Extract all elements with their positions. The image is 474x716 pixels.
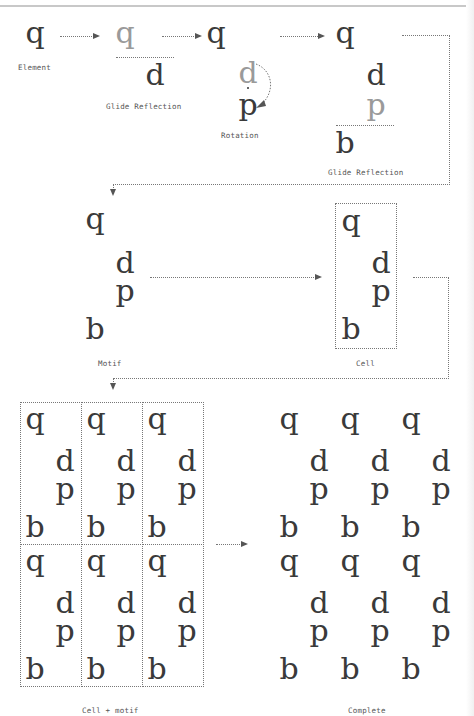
label-glide2: Glide Reflection (328, 168, 403, 177)
motif-q: q (84, 204, 106, 234)
grid-glyph-q: q (85, 404, 107, 434)
arrow-head-1 (93, 33, 100, 39)
rotation-q: q (205, 18, 227, 48)
arrow-head-3 (318, 33, 325, 39)
glide2-q: q (334, 18, 356, 48)
arrow-head-4 (110, 189, 116, 196)
label-rotation: Rotation (221, 131, 259, 140)
complete-glyph-p: p (430, 474, 452, 504)
label-cell-motif: Cell + motif (82, 706, 139, 715)
connector-1-right (449, 35, 450, 185)
connector-2-right (448, 277, 449, 379)
rotation-arc-icon (252, 62, 278, 110)
complete-glyph-p: p (308, 474, 330, 504)
connector-1-bottom (113, 184, 450, 185)
complete-glyph-p: p (430, 616, 452, 646)
grid-glyph-p: p (54, 616, 76, 646)
complete-glyph-b: b (278, 654, 300, 684)
cell-p: p (370, 276, 392, 306)
label-glide1: Glide Reflection (106, 102, 181, 111)
arrow-line-3 (280, 36, 320, 37)
complete-glyph-b: b (400, 654, 422, 684)
arrow-head-7 (241, 541, 248, 547)
grid-glyph-b: b (146, 654, 168, 684)
grid-glyph-p: p (115, 616, 137, 646)
label-cell: Cell (356, 359, 375, 368)
complete-glyph-b: b (278, 512, 300, 542)
motif-p: p (114, 276, 136, 306)
glide1-d: d (144, 60, 166, 90)
label-motif: Motif (98, 359, 122, 368)
grid-glyph-b: b (24, 512, 46, 542)
arrow-line-2 (162, 36, 196, 37)
arrow-head-6 (110, 383, 116, 390)
complete-glyph-b: b (400, 512, 422, 542)
complete-glyph-p: p (369, 616, 391, 646)
complete-glyph-b: b (339, 654, 361, 684)
grid-glyph-q: q (24, 404, 46, 434)
page-edge (466, 0, 474, 716)
grid-glyph-b: b (85, 512, 107, 542)
arrow-head-2 (195, 33, 202, 39)
grid-glyph-b: b (146, 512, 168, 542)
grid-glyph-p: p (176, 616, 198, 646)
complete-glyph-p: p (308, 616, 330, 646)
grid-glyph-p: p (115, 474, 137, 504)
grid-glyph-b: b (85, 654, 107, 684)
complete-glyph-q: q (278, 404, 300, 434)
grid-glyph-q: q (146, 404, 168, 434)
glide2-b: b (334, 128, 356, 158)
glide2-ghost-p: p (365, 90, 387, 120)
arrow-head-5 (315, 274, 322, 280)
element-q: q (24, 18, 46, 48)
connector-2-top (413, 277, 449, 278)
cell-b: b (340, 314, 362, 344)
cell-q: q (340, 206, 362, 236)
label-complete: Complete (348, 706, 386, 715)
motif-b: b (84, 314, 106, 344)
label-element: Element (18, 63, 51, 72)
connector-2-bottom (113, 378, 449, 379)
glide2-d: d (365, 60, 387, 90)
grid-glyph-q: q (146, 546, 168, 576)
complete-glyph-q: q (339, 404, 361, 434)
glide1-ghost-q: q (114, 18, 136, 48)
connector-1-top (402, 35, 450, 36)
complete-glyph-q: q (400, 546, 422, 576)
grid-glyph-b: b (24, 654, 46, 684)
arrow-line-7 (216, 544, 242, 545)
complete-glyph-q: q (339, 546, 361, 576)
grid-glyph-p: p (54, 474, 76, 504)
top-rule (0, 5, 466, 7)
grid-glyph-q: q (24, 546, 46, 576)
complete-glyph-q: q (400, 404, 422, 434)
arrow-line-1 (60, 36, 94, 37)
complete-glyph-q: q (278, 546, 300, 576)
grid-glyph-p: p (176, 474, 198, 504)
arrow-line-5 (150, 277, 316, 278)
complete-glyph-b: b (339, 512, 361, 542)
grid-glyph-q: q (85, 546, 107, 576)
complete-glyph-p: p (369, 474, 391, 504)
